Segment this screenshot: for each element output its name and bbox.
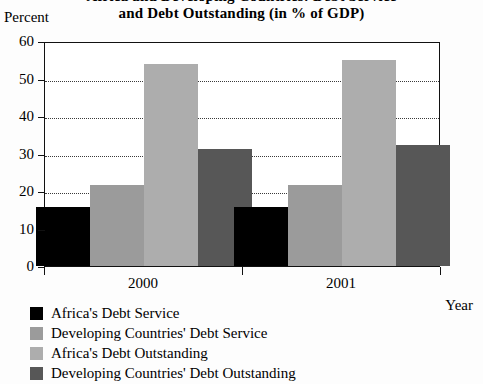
legend-swatch-icon-0 [30,307,43,320]
legend-swatch-icon-2 [30,347,43,360]
legend-swatch-icon-3 [30,367,43,380]
y-tick-60 [38,42,45,43]
bar-2001-series-3 [396,145,450,266]
x-tick-label-2000: 2000 [103,275,183,291]
chart-title-line-2: and Debt Outstanding (in % of GDP) [0,5,483,22]
legend-item-1: Developing Countries' Debt Service [30,323,370,343]
y-tick-label-60: 60 [0,34,34,49]
x-tick-0 [44,267,45,275]
x-axis-title: Year [445,297,473,313]
bar-2001-series-2 [342,60,396,266]
chart-legend: Africa's Debt ServiceDeveloping Countrie… [30,303,370,383]
bar-2000-series-2 [144,64,198,266]
y-tick-40 [38,117,45,118]
y-tick-label-20: 20 [0,184,34,199]
chart-plot-area [44,42,440,267]
legend-item-3: Developing Countries' Debt Outstanding [30,363,370,383]
y-tick-label-10: 10 [0,222,34,237]
bar-2001-series-0 [234,207,288,266]
x-tick-label-2001: 2001 [301,275,381,291]
y-axis-unit-label: Percent [4,9,49,25]
legend-swatch-icon-1 [30,327,43,340]
page-title: Africa and Developing Countries: Debt Se… [0,0,483,22]
y-tick-50 [38,80,45,81]
legend-item-2: Africa's Debt Outstanding [30,343,370,363]
bar-2000-series-0 [36,207,90,266]
y-tick-10 [38,230,45,231]
x-tick-1 [242,267,243,275]
bar-2000-series-1 [90,185,144,266]
y-tick-label-40: 40 [0,109,34,124]
y-tick-label-0: 0 [0,259,34,274]
legend-label-0: Africa's Debt Service [51,305,179,321]
bar-2001-series-1 [288,185,342,266]
y-tick-label-50: 50 [0,72,34,87]
legend-item-0: Africa's Debt Service [30,303,370,323]
y-tick-label-30: 30 [0,147,34,162]
y-tick-30 [38,155,45,156]
x-tick-2 [440,267,441,275]
legend-label-3: Developing Countries' Debt Outstanding [51,365,296,381]
y-tick-20 [38,192,45,193]
legend-label-1: Developing Countries' Debt Service [51,325,267,341]
legend-label-2: Africa's Debt Outstanding [51,345,208,361]
